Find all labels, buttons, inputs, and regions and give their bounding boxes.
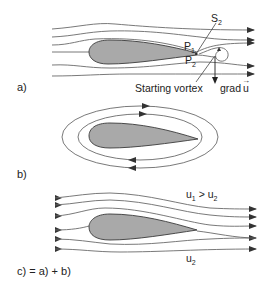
panel-b: b) <box>17 103 218 180</box>
streamline <box>197 231 256 238</box>
panel-a: S2 P1 P2 Starting vortex grad u → a) <box>17 12 254 94</box>
panel-c: u1 > u2 u2 c) = a) + b) <box>17 188 256 277</box>
grad-arrow-head-icon <box>212 77 218 84</box>
airfoil <box>89 214 197 240</box>
label-starting-vortex: Starting vortex <box>135 82 203 94</box>
label-s2: S2 <box>211 12 222 26</box>
panel-a-label: a) <box>17 81 27 93</box>
streamline <box>52 62 254 68</box>
starting-vortex-loop <box>199 48 228 62</box>
streamline <box>52 31 254 40</box>
airfoil-flow-diagram: S2 P1 P2 Starting vortex grad u → a) b) <box>0 0 272 287</box>
label-grad: grad <box>220 82 241 94</box>
point-p1-p2-dot <box>195 53 197 55</box>
circulation-arrow-icon <box>139 111 147 117</box>
streamline <box>55 238 256 244</box>
streamline <box>52 24 254 30</box>
circulation-arrow-icon <box>128 165 136 171</box>
airfoil <box>89 123 198 148</box>
starting-vortex-leader-line <box>196 57 214 82</box>
label-p2: P2 <box>185 54 196 68</box>
panel-c-label: c) = a) + b) <box>17 265 71 277</box>
circulation-arrow-icon <box>128 157 136 163</box>
label-u1-greater-u2: u1 > u2 <box>186 188 218 202</box>
vector-arrow-icon: → <box>242 76 250 85</box>
streamline <box>197 55 215 57</box>
streamline <box>52 74 254 76</box>
panel-b-label: b) <box>17 168 27 180</box>
label-u2: u2 <box>186 252 196 266</box>
label-p1: P1 <box>184 40 195 54</box>
airfoil <box>89 40 197 64</box>
circulation-arrow-icon <box>142 103 150 109</box>
streamline <box>55 193 256 209</box>
streamline <box>55 249 256 252</box>
